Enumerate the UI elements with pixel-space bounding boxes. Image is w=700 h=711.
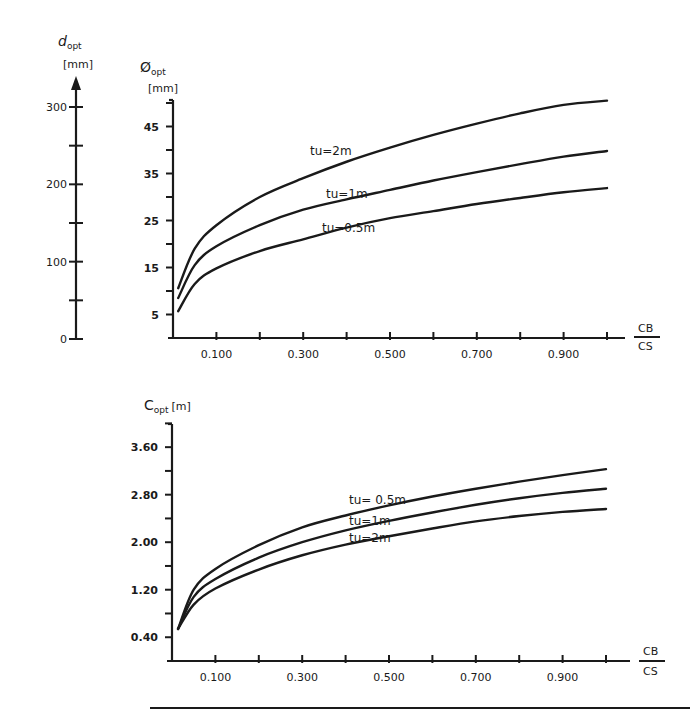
x-tick-label: 0.500 xyxy=(374,348,406,361)
x-tick-label: 0.100 xyxy=(200,671,232,684)
top-axis-title: Øopt xyxy=(140,59,166,77)
x-tick-label: 0.900 xyxy=(548,348,580,361)
x-tick-label: 0.900 xyxy=(547,671,579,684)
y-tick-label: 0.40 xyxy=(131,631,158,644)
aux-tick-label: 100 xyxy=(46,256,67,269)
y-tick-label: 2.00 xyxy=(131,536,158,549)
curve-label: tu= 0.5m xyxy=(349,493,406,507)
y-tick-label: 15 xyxy=(144,262,159,275)
top-x-axis-fraction: CB CS xyxy=(634,322,660,353)
bottom-axis-title: Copt[m] xyxy=(144,397,191,415)
top-axis-unit: [mm] xyxy=(148,82,178,95)
aux-axis-title: dopt xyxy=(58,33,82,51)
top-chart-diameter: Øopt [mm] 0.1000.3000.5000.7000.90051525… xyxy=(140,59,660,361)
aux-d-opt-axis: dopt [mm] 0100200300 xyxy=(46,33,93,346)
bottom-chart-spacing: Copt[m] 0.1000.3000.5000.7000.9000.401.2… xyxy=(131,397,665,684)
x-tick-label: 0.700 xyxy=(461,348,493,361)
x-tick-label: 0.300 xyxy=(287,348,319,361)
y-tick-label: 5 xyxy=(151,309,159,322)
curve-label: tu=2m xyxy=(310,144,352,158)
x-tick-label: 0.300 xyxy=(286,671,318,684)
chart-canvas: dopt [mm] 0100200300 Øopt [mm] 0.1000.30… xyxy=(0,0,700,711)
svg-text:CS: CS xyxy=(638,340,653,353)
curve-label: tu=2m xyxy=(349,531,391,545)
bottom-x-axis-fraction: CB CS xyxy=(639,645,665,678)
y-tick-label: 2.80 xyxy=(131,489,158,502)
x-tick-label: 0.700 xyxy=(460,671,492,684)
y-tick-label: 35 xyxy=(144,168,159,181)
curve-label: tu=0.5m xyxy=(322,221,375,235)
y-tick-label: 25 xyxy=(144,215,159,228)
aux-tick-label: 0 xyxy=(60,333,67,346)
y-tick-label: 45 xyxy=(144,121,159,134)
y-tick-label: 3.60 xyxy=(131,441,158,454)
x-tick-label: 0.500 xyxy=(373,671,405,684)
svg-text:CB: CB xyxy=(643,645,658,658)
aux-tick-label: 200 xyxy=(46,178,67,191)
curve-tu-1m xyxy=(178,489,606,629)
curve-label: tu=1m xyxy=(349,514,391,528)
curve-tu-1m xyxy=(178,151,607,298)
x-tick-label: 0.100 xyxy=(201,348,233,361)
svg-text:CS: CS xyxy=(643,665,658,678)
arrow-up-icon xyxy=(71,76,81,90)
curve-tu-2m xyxy=(178,509,606,629)
aux-tick-label: 300 xyxy=(46,101,67,114)
y-tick-label: 1.20 xyxy=(131,584,158,597)
svg-text:CB: CB xyxy=(638,322,653,335)
aux-axis-unit: [mm] xyxy=(63,58,93,71)
curve-label: tu=1m xyxy=(326,187,368,201)
